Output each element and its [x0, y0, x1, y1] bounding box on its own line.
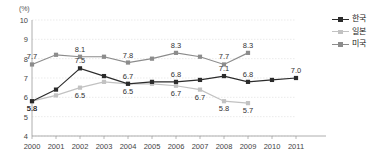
data-point-label: 6.8 — [237, 70, 259, 79]
legend-label: 미국 — [352, 39, 366, 49]
legend-label: 일본 — [352, 27, 366, 37]
legend-marker-icon — [332, 44, 349, 45]
y-tick-label: 9 — [14, 35, 28, 44]
legend-square-icon — [338, 17, 342, 21]
chart-legend: 한국일본미국 — [332, 14, 366, 49]
data-point-label: 7.5 — [69, 56, 91, 65]
legend-square-icon — [338, 42, 342, 46]
data-point-label: 8.3 — [237, 41, 259, 50]
line-chart: (%) 45678910 200020012002200320042005200… — [0, 0, 372, 166]
data-point-label: 7.7 — [213, 52, 235, 61]
data-point-label: 7.0 — [285, 66, 307, 75]
data-point-label: 6.5 — [69, 91, 91, 100]
data-point-label: 5.8 — [21, 104, 43, 113]
y-tick-label: 5 — [14, 112, 28, 121]
data-point-label: 6.7 — [189, 93, 211, 102]
y-tick-label: 10 — [14, 16, 28, 25]
data-point-label: 6.7 — [117, 72, 139, 81]
data-point-label: 5.8 — [213, 104, 235, 113]
legend-marker-icon — [332, 19, 349, 20]
data-point-label: 7.1 — [213, 64, 235, 73]
legend-item: 일본 — [332, 27, 366, 37]
legend-square-icon — [338, 30, 342, 34]
data-point-label: 6.7 — [165, 89, 187, 98]
data-point-label: 7.8 — [117, 51, 139, 60]
legend-item: 한국 — [332, 14, 366, 24]
x-tick-label: 2011 — [282, 142, 310, 151]
data-point-label: 8.1 — [69, 45, 91, 54]
y-tick-label: 4 — [14, 132, 28, 141]
y-tick-label: 6 — [14, 93, 28, 102]
legend-label: 한국 — [352, 14, 366, 24]
data-point-label: 5.7 — [237, 106, 259, 115]
data-point-label: 6.8 — [165, 70, 187, 79]
data-point-label: 8.3 — [165, 41, 187, 50]
legend-item: 미국 — [332, 39, 366, 49]
data-point-label: 7.7 — [21, 52, 43, 61]
data-point-label: 6.5 — [117, 87, 139, 96]
legend-marker-icon — [332, 31, 349, 32]
y-tick-label: 7 — [14, 74, 28, 83]
